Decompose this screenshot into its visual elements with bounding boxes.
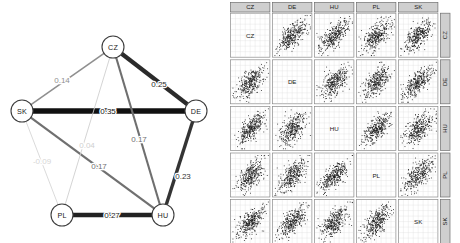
scatter-point [282, 131, 283, 132]
scatter-point [306, 171, 307, 172]
scatter-point [378, 34, 379, 35]
scatter-point [265, 115, 266, 116]
scatter-point [408, 102, 409, 103]
scatter-point [333, 92, 334, 93]
scatter-point [405, 146, 406, 147]
scatter-point [414, 193, 415, 194]
scatter-point [241, 94, 242, 95]
scatter-point [267, 175, 268, 176]
scatter-point [408, 93, 409, 94]
scatter-point [334, 78, 335, 79]
scatter-point [317, 95, 318, 96]
scatter-point [377, 83, 378, 84]
scatter-point [337, 216, 338, 217]
scatter-point [379, 22, 380, 23]
scatter-point [252, 134, 253, 135]
network-node-de[interactable]: DE [185, 100, 207, 122]
scatter-point [279, 187, 280, 188]
scatter-point [415, 39, 416, 40]
scatter-point [291, 31, 292, 32]
scatter-point [249, 127, 250, 128]
scatter-point [263, 132, 264, 133]
scatter-point [298, 133, 299, 134]
scatter-point [333, 212, 334, 213]
scatter-point [332, 172, 333, 173]
scatter-point [295, 118, 296, 119]
scatter-point [284, 120, 285, 121]
scatter-point [385, 74, 386, 75]
scatter-point [419, 169, 420, 170]
scatter-point [310, 27, 311, 28]
scatter-point [426, 22, 427, 23]
scatter-point [428, 80, 429, 81]
scatter-point [336, 175, 337, 176]
scatter-point [379, 127, 380, 128]
scatter-point [388, 28, 389, 29]
scatter-point [321, 36, 322, 37]
scatter-point [298, 211, 299, 212]
scatter-point [283, 222, 284, 223]
scatter-point [265, 123, 266, 124]
scatter-point [292, 133, 293, 134]
scatter-point [435, 155, 436, 156]
scatter-point [300, 205, 301, 206]
scatter-point [377, 18, 378, 19]
scatter-point [418, 116, 419, 117]
scatter-point [253, 136, 254, 137]
scatter-point [292, 42, 293, 43]
scatter-point [340, 25, 341, 26]
scatter-point [422, 159, 423, 160]
scatter-point [423, 76, 424, 77]
scatter-point [337, 35, 338, 36]
network-node-hu[interactable]: HU [152, 204, 174, 226]
scatter-point [327, 85, 328, 86]
network-node-pl[interactable]: PL [51, 204, 73, 226]
scatter-point [421, 73, 422, 74]
scatter-point [297, 170, 298, 171]
scatter-point [324, 179, 325, 180]
scatter-point [424, 49, 425, 50]
scatter-point [426, 21, 427, 22]
scatter-point [251, 83, 252, 84]
scatter-point [262, 208, 263, 209]
network-node-cz[interactable]: CZ [102, 36, 124, 58]
scatter-point [332, 30, 333, 31]
scatter-point [327, 89, 328, 90]
scatter-point [379, 128, 380, 129]
scatter-point [282, 185, 283, 186]
scatter-point [282, 46, 283, 47]
scatter-point [254, 128, 255, 129]
scatter-point [300, 210, 301, 211]
network-node-sk[interactable]: SK [11, 100, 33, 122]
scatter-point [260, 113, 261, 114]
scatter-point [245, 119, 246, 120]
scatter-point [331, 79, 332, 80]
scatter-point [378, 219, 379, 220]
scatter-point [291, 35, 292, 36]
scatter-point [252, 164, 253, 165]
scatter-point [301, 204, 302, 205]
scatter-point [324, 186, 325, 187]
scatter-point [375, 119, 376, 120]
scatter-point [246, 183, 247, 184]
scatter-point [334, 26, 335, 27]
scatter-point [368, 231, 369, 232]
scatter-point [286, 45, 287, 46]
scatter-point [293, 125, 294, 126]
scatter-point [246, 232, 247, 233]
scatter-point [372, 229, 373, 230]
scatter-point [255, 163, 256, 164]
scatter-point [432, 120, 433, 121]
scatter-point [384, 32, 385, 33]
scatter-point [322, 48, 323, 49]
scatter-point [433, 70, 434, 71]
scatter-point [292, 137, 293, 138]
scatter-point [257, 164, 258, 165]
scatter-point [379, 236, 380, 237]
scatter-point [296, 175, 297, 176]
scatter-point [320, 188, 321, 189]
scatter-point [276, 237, 277, 238]
scatter-point [291, 126, 292, 127]
scatter-point [344, 73, 345, 74]
scatter-point [377, 136, 378, 137]
